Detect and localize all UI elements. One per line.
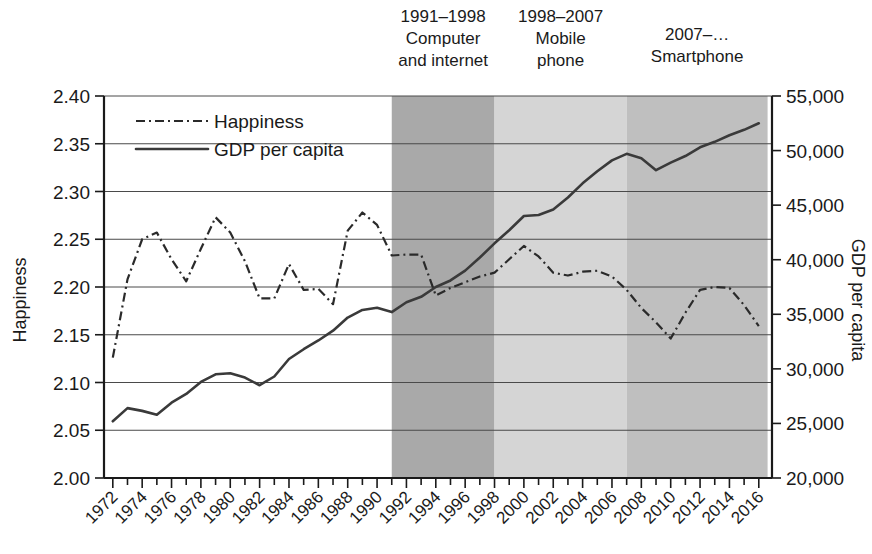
right-tick-label: 50,000 [786,141,844,162]
x-tick-label: 1982 [228,487,268,527]
era-annotation-line: 1991–1998 [401,7,486,26]
x-tick-label: 2006 [581,487,621,527]
right-tick-label: 35,000 [786,304,844,325]
left-tick-label: 2.15 [53,325,90,346]
left-tick-label: 2.20 [53,277,90,298]
x-tick-label: 2008 [610,487,650,527]
left-tick-label: 2.30 [53,182,90,203]
legend-label-happiness: Happiness [214,111,304,132]
x-tick-label: 2000 [493,487,533,527]
left-tick-label: 2.00 [53,468,90,489]
x-tick-label: 2012 [669,487,709,527]
era-annotation-labels: 1991–1998Computerand internet1998–2007Mo… [398,7,743,70]
era-annotation-line: 1998–2007 [518,7,603,26]
x-tick-label: 1984 [258,487,298,527]
legend-label-gdp-per-capita: GDP per capita [214,139,344,160]
left-tick-label: 2.40 [53,86,90,107]
right-axis-title: GDP per capita [848,239,868,363]
x-tick-label: 1974 [111,487,151,527]
left-tick-label: 2.10 [53,373,90,394]
x-tick-label: 1998 [463,487,503,527]
x-tick-label: 1988 [316,487,356,527]
x-tick-label: 1978 [170,487,210,527]
era-annotation-line: Computer [406,29,481,48]
era-annotation-line: phone [537,51,584,70]
x-tick-label: 2004 [551,487,591,527]
right-tick-label: 20,000 [786,468,844,489]
x-tick-label: 2010 [639,487,679,527]
happiness-gdp-line-chart: 1991–1998Computerand internet1998–2007Mo… [0,0,872,554]
era-annotation-line: Smartphone [651,47,744,66]
x-tick-label: 1976 [140,487,180,527]
x-tick-label: 1990 [346,487,386,527]
era-annotation-line: 2007–… [665,25,729,44]
right-tick-label: 25,000 [786,413,844,434]
left-tick-label: 2.05 [53,420,90,441]
chart-figure: 1991–1998Computerand internet1998–2007Mo… [0,0,872,554]
x-axis-ticks: 1972197419761978198019821984198619881990… [81,478,767,528]
x-tick-label: 1996 [434,487,474,527]
era-annotation-line: and internet [398,51,488,70]
right-tick-label: 30,000 [786,359,844,380]
left-tick-label: 2.25 [53,229,90,250]
x-tick-label: 1972 [81,487,121,527]
x-tick-label: 1994 [404,487,444,527]
right-tick-label: 45,000 [786,195,844,216]
x-tick-label: 2002 [522,487,562,527]
left-axis-ticks: 2.002.052.102.152.202.252.302.352.40 [53,86,104,489]
left-tick-label: 2.35 [53,134,90,155]
x-tick-label: 1992 [375,487,415,527]
era-annotation-line: Mobile [536,29,586,48]
right-axis-ticks: 20,00025,00030,00035,00040,00045,00050,0… [772,86,844,489]
left-axis-title: Happiness [10,257,30,342]
x-tick-label: 2014 [698,487,738,527]
x-tick-label: 1980 [199,487,239,527]
chart-legend: Happiness GDP per capita [136,111,344,160]
right-tick-label: 55,000 [786,86,844,107]
right-tick-label: 40,000 [786,250,844,271]
x-tick-label: 1986 [287,487,327,527]
x-tick-label: 2016 [727,487,767,527]
